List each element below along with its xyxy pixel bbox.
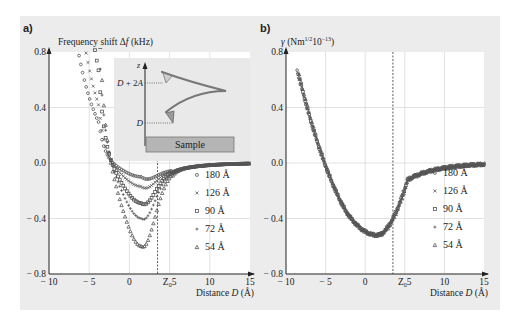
y-tick-label: 0.0 [34, 158, 46, 168]
x-tick-label: Z05 [163, 277, 177, 288]
inset-label-d: D [136, 118, 144, 128]
legend-item: 90 Å [443, 203, 464, 214]
panel-label: b) [260, 22, 271, 34]
y-axis-arrow-icon [47, 47, 52, 54]
x-tick-label: 0 [363, 277, 368, 287]
legend-item: 72 Å [205, 223, 226, 234]
y-tick-label: 0.0 [271, 158, 283, 168]
y-tick-label: 0.4 [34, 103, 46, 113]
legend-item: 54 Å [443, 239, 464, 250]
x-tick-label: − 10 [277, 277, 294, 287]
sample-label: Sample [175, 139, 206, 150]
x-axis-label: Distance D (Å) [196, 287, 254, 299]
x-tick-label: Z05 [398, 277, 412, 288]
y-tick-label: − 0.4 [26, 214, 46, 224]
y-axis-label: Frequency shift Δf (kHz) [58, 37, 153, 48]
y-tick-label: − 0.4 [263, 214, 283, 224]
x-tick-label: 10 [440, 277, 450, 287]
x-axis-label: Distance D (Å) [430, 287, 488, 299]
legend-item: 180 Å [443, 167, 469, 178]
legend-item: 54 Å [205, 241, 226, 252]
x-tick-label: − 10 [40, 277, 57, 287]
x-tick-label: 15 [479, 277, 489, 287]
y-tick-label: 0.8 [271, 47, 283, 57]
legend-item: 72 Å [443, 221, 464, 232]
x-tick-label: 0 [127, 277, 132, 287]
x-axis-arrow-icon [248, 272, 255, 277]
figure-canvas: 0.80.40.0− 0.4− 0.8− 10− 50Z051015Distan… [0, 0, 508, 325]
x-tick-label: − 5 [83, 277, 96, 287]
x-tick-label: 10 [205, 277, 215, 287]
y-tick-label: 0.4 [271, 103, 283, 113]
legend-item: 126 Å [443, 185, 469, 196]
y-tick-label: 0.8 [34, 47, 46, 57]
legend-item: 180 Å [205, 169, 231, 180]
panel-label: a) [23, 22, 33, 34]
inset-diagram: zD + 2ADSample [114, 58, 250, 161]
legend-item: 126 Å [205, 187, 231, 198]
x-tick-label: 15 [245, 277, 255, 287]
y-axis-label: γ (Nm1/210−13) [281, 36, 334, 48]
inset-label-d-plus-2a: D + 2A [116, 78, 144, 88]
x-tick-label: − 5 [319, 277, 332, 287]
legend-item: 90 Å [205, 205, 226, 216]
y-axis-arrow-icon [284, 47, 289, 54]
x-axis-arrow-icon [482, 272, 489, 277]
chart-panel-a: 0.80.40.0− 0.4− 0.8− 10− 50Z051015Distan… [23, 22, 255, 299]
chart-panel-b: 0.80.40.0− 0.4− 0.8− 10− 50Z051015Distan… [260, 22, 489, 299]
